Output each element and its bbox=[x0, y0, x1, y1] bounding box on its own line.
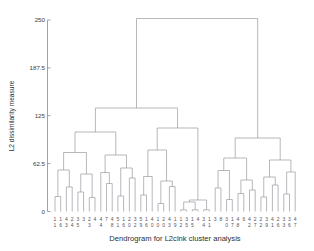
y-tick-label-187.5: 187.5 bbox=[30, 64, 46, 71]
dendrogram-canvas: 250 187.5 125 62.5 0 L2 dissimilarity me… bbox=[0, 0, 314, 251]
leaf-label-bottom-35: 7 bbox=[254, 222, 257, 228]
leaf-label-bottom-6: 3 bbox=[88, 222, 91, 228]
dendrogram-figure: · · · 250 187.5 125 62.5 0 L2 dissimilar… bbox=[0, 0, 314, 251]
leaf-label-top-25: 4 bbox=[197, 216, 200, 222]
y-tick-label-125: 125 bbox=[35, 112, 46, 119]
leaf-label-bottom-0: 1 bbox=[54, 222, 57, 228]
leaf-label-bottom-24: 5 bbox=[191, 222, 194, 228]
leaf-label-top-9: 7 bbox=[105, 216, 108, 222]
leaf-label-bottom-39: 6 bbox=[277, 222, 280, 228]
leaf-label-bottom-20: 3 bbox=[168, 222, 171, 228]
y-tick-label-62.5: 62.5 bbox=[33, 160, 46, 167]
leaf-label-bottom-2: 3 bbox=[65, 222, 68, 228]
leaf-label-bottom-14: 2 bbox=[134, 222, 137, 228]
y-tick-label-0: 0 bbox=[42, 208, 46, 215]
leaf-label-bottom-34: 2 bbox=[248, 222, 251, 228]
leaf-label-top-28: 3 bbox=[214, 216, 217, 222]
leaf-label-bottom-22: 2 bbox=[179, 222, 182, 228]
leaf-label-bottom-12: 6 bbox=[122, 222, 125, 228]
leaf-label-bottom-23: 5 bbox=[185, 222, 188, 228]
leaf-label-bottom-18: 0 bbox=[157, 222, 160, 228]
leaf-label-top-5: 3 bbox=[82, 216, 85, 222]
leaf-label-bottom-10: 8 bbox=[111, 222, 114, 228]
leaf-label-bottom-21: 9 bbox=[174, 222, 177, 228]
leaf-label-bottom-19: 0 bbox=[162, 222, 165, 228]
leaf-label-bottom-16: 6 bbox=[145, 222, 148, 228]
leaf-label-bottom-42: 7 bbox=[294, 222, 297, 228]
leaf-label-top-33: 6 bbox=[242, 216, 245, 222]
leaf-label-bottom-17: 0 bbox=[151, 222, 154, 228]
y-axis: 250 187.5 125 62.5 0 L2 dissimilarity me… bbox=[8, 16, 51, 215]
leaf-label-bottom-15: 9 bbox=[139, 222, 142, 228]
leaf-label-bottom-32: 8 bbox=[237, 222, 240, 228]
leaf-label-bottom-41: 6 bbox=[288, 222, 291, 228]
leaf-label-bottom-36: 2 bbox=[260, 222, 263, 228]
leaf-label-top-29: 8 bbox=[220, 216, 223, 222]
leaf-label-bottom-38: 1 bbox=[271, 222, 274, 228]
leaf-label-bottom-8: 4 bbox=[99, 222, 102, 228]
leaf-label-bottom-37: 9 bbox=[265, 222, 268, 228]
dendrogram-links bbox=[55, 19, 295, 212]
leaf-label-bottom-40: 3 bbox=[282, 222, 285, 228]
y-axis-title: L2 dissimilarity measure bbox=[8, 80, 16, 151]
leaf-label-bottom-30: 0 bbox=[225, 222, 228, 228]
leaf-label-bottom-26: 4 bbox=[202, 222, 205, 228]
leaf-label-bottom-11: 1 bbox=[117, 222, 120, 228]
leaf-label-bottom-3: 4 bbox=[71, 222, 74, 228]
x-axis-leaf-labels: 1 1 4 2 3 3 2 4 4 7 4 5 1 2 3 5 1 4 1 2 … bbox=[54, 216, 297, 228]
leaf-label-bottom-4: 5 bbox=[77, 222, 80, 228]
leaf-label-top-7: 4 bbox=[94, 216, 97, 222]
leaf-label-bottom-13: 0 bbox=[128, 222, 131, 228]
x-axis-title: Dendrogram for L2clnk cluster analysis bbox=[109, 234, 240, 243]
y-tick-label-250: 250 bbox=[35, 16, 46, 23]
leaf-label-bottom-1: 6 bbox=[59, 222, 62, 228]
leaf-label-bottom-31: 7 bbox=[231, 222, 234, 228]
leaf-label-bottom-27: 1 bbox=[208, 222, 211, 228]
